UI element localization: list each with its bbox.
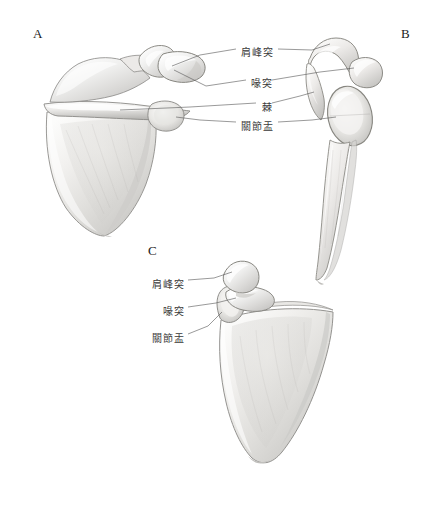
label-glenoid-c: 關節盂: [152, 330, 186, 345]
label-spine: 棘: [262, 99, 273, 114]
panel-letter-c: C: [148, 243, 157, 259]
anatomical-figure-scapula: A B C 肩峰突 喙突 棘 關節盂 肩峰突 喙突 關節盂: [0, 0, 439, 509]
label-acromion: 肩峰突: [241, 44, 275, 59]
scapula-illustrations: [0, 0, 439, 509]
label-glenoid: 關節盂: [241, 118, 275, 133]
panel-c-artwork: [217, 261, 333, 463]
panel-a-artwork: [44, 45, 205, 236]
panel-letter-b: B: [401, 26, 410, 42]
label-coracoid: 喙突: [251, 75, 273, 90]
label-acromion-c: 肩峰突: [152, 276, 186, 291]
label-coracoid-c: 喙突: [163, 303, 185, 318]
panel-b-artwork: [306, 38, 383, 285]
panel-letter-a: A: [33, 26, 43, 42]
